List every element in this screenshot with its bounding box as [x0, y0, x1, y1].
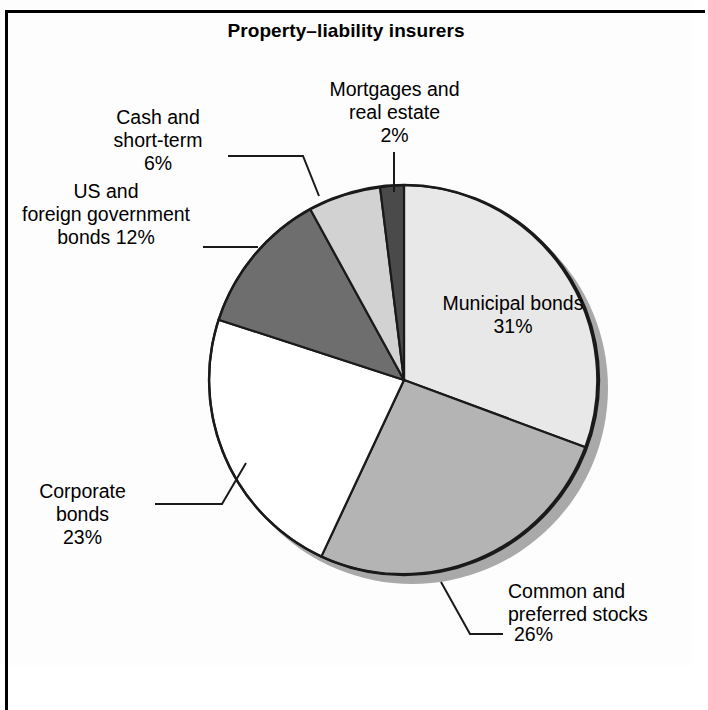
slice-label-municipal-bonds: Municipal bonds 31% [418, 292, 608, 338]
slice-label-corporate-bonds: Corporate bonds 23% [10, 480, 155, 549]
slice-label-mortgages-real-estate: Mortgages and real estate 2% [307, 78, 482, 147]
leader-line-cash [228, 156, 319, 196]
slice-label-common-preferred-stocks-percent: 26% [514, 623, 634, 646]
slice-label-cash-short-term: Cash and short-term 6% [88, 106, 228, 175]
slice-label-government-bonds: US and foreign government bonds 12% [10, 180, 202, 249]
slice-label-common-preferred-stocks: Common and preferred stocks [508, 580, 708, 626]
leader-line-common-preferred-stocks [441, 582, 503, 634]
